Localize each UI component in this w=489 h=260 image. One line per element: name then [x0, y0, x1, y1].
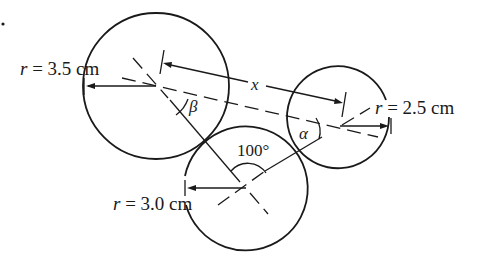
arrowhead-icon — [163, 62, 172, 68]
line-large-to-bottom-center — [170, 100, 240, 182]
problem-marker-dot — [1, 22, 4, 25]
arrowhead-icon — [86, 83, 95, 89]
right-circle — [287, 66, 389, 168]
line-bottom-extension — [250, 193, 268, 214]
angle-100-arc — [231, 163, 266, 173]
distance-x-tick-right — [342, 92, 346, 117]
distance-x-line-right — [266, 86, 340, 102]
line-right-extension — [342, 108, 370, 125]
distance-x-line-left — [166, 64, 248, 82]
angle-alpha-label: α — [299, 124, 309, 143]
arrowhead-icon — [187, 185, 196, 191]
distance-x-tick-left — [160, 50, 164, 74]
distance-x-label: x — [250, 75, 259, 94]
bottom-circle-radius-label: r = 3.0 cm — [113, 193, 193, 214]
angle-alpha-arc — [316, 118, 320, 139]
line-large-to-right-dashed — [122, 78, 378, 137]
angle-beta-label: β — [188, 97, 198, 116]
angle-100-label: 100° — [237, 141, 269, 160]
three-circles-diagram: r = 3.5 cm r = 3.0 cm r = 2.5 cm x β α 1… — [0, 0, 489, 260]
arrowhead-icon — [334, 98, 343, 104]
line-large-to-bottom-dashed-start — [133, 58, 168, 98]
right-circle-radius-label: r = 2.5 cm — [375, 97, 455, 118]
angle-beta-arc — [176, 99, 188, 115]
large-circle-radius-label: r = 3.5 cm — [20, 58, 100, 79]
